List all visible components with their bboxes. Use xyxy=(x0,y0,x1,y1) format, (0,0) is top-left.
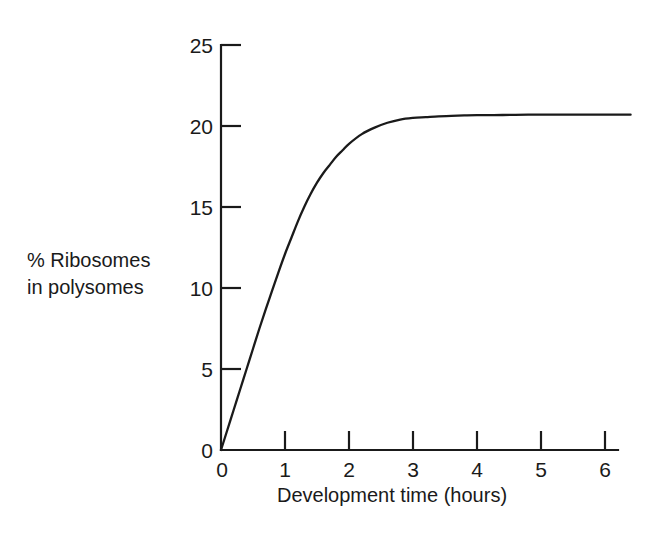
x-tick-label-3: 3 xyxy=(407,458,419,481)
y-axis-ticks xyxy=(221,45,241,369)
x-tick-label-0: 0 xyxy=(216,458,228,481)
x-tick-label-5: 5 xyxy=(535,458,547,481)
y-tick-label-10: 10 xyxy=(190,277,213,300)
y-tick-label-15: 15 xyxy=(190,196,213,219)
y-tick-label-25: 25 xyxy=(190,34,213,57)
y-axis-tick-labels: 25 20 15 10 5 0 xyxy=(190,34,213,462)
figure-container: 25 20 15 10 5 0 0 1 2 3 4 5 6 xyxy=(0,0,649,533)
y-axis-title: % Ribosomes in polysomes xyxy=(27,249,150,298)
data-series-ribosomes-curve xyxy=(221,115,631,450)
x-axis-title: Development time (hours) xyxy=(277,484,507,506)
x-tick-label-1: 1 xyxy=(279,458,291,481)
x-tick-label-2: 2 xyxy=(343,458,355,481)
y-tick-label-20: 20 xyxy=(190,115,213,138)
x-tick-label-6: 6 xyxy=(599,458,611,481)
y-tick-label-5: 5 xyxy=(201,358,213,381)
y-tick-label-0: 0 xyxy=(201,439,213,462)
y-axis-title-line-1: % Ribosomes xyxy=(27,249,150,271)
x-axis-ticks xyxy=(285,431,605,450)
y-axis-title-line-2: in polysomes xyxy=(27,276,144,298)
x-axis-tick-labels: 0 1 2 3 4 5 6 xyxy=(216,458,611,481)
line-chart: 25 20 15 10 5 0 0 1 2 3 4 5 6 xyxy=(0,0,649,533)
x-tick-label-4: 4 xyxy=(471,458,483,481)
